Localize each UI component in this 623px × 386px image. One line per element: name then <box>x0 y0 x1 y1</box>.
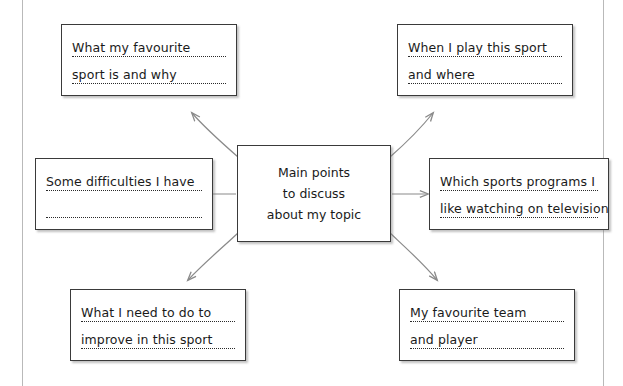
branch-line-text: What my favourite <box>72 40 190 55</box>
writing-line: sport is and why <box>72 60 226 87</box>
branch-line-text: and player <box>410 332 478 347</box>
dotted-rule <box>72 83 226 84</box>
branch-line-text: Which sports programs I <box>440 174 595 189</box>
dotted-rule <box>408 56 562 57</box>
main-topic-line: Main points <box>278 162 350 183</box>
writing-line: and where <box>408 60 562 87</box>
dotted-rule <box>81 348 235 349</box>
arrow-to-favourite-team <box>390 233 437 280</box>
writing-line: What my favourite <box>72 33 226 60</box>
branch-box-when-where-play[interactable]: When I play this sport and where <box>397 24 573 96</box>
writing-line: When I play this sport <box>408 33 562 60</box>
main-topic-line: to discuss <box>283 183 345 204</box>
dotted-rule <box>46 190 202 191</box>
branch-box-improve-in-sport[interactable]: What I need to do to improve in this spo… <box>70 289 246 361</box>
branch-line-text: improve in this sport <box>81 332 213 347</box>
writing-line: My favourite team <box>410 298 564 325</box>
dotted-rule <box>410 348 564 349</box>
dotted-rule <box>440 217 598 218</box>
dotted-rule <box>72 56 226 57</box>
branch-box-sports-programs-tv[interactable]: Which sports programs I like watching on… <box>429 158 609 230</box>
dotted-rule <box>408 83 562 84</box>
branch-box-difficulties[interactable]: Some difficulties I have <box>35 158 213 230</box>
branch-box-favourite-team-player[interactable]: My favourite team and player <box>399 289 575 361</box>
arrow-to-improve-in-sport <box>188 233 238 280</box>
branch-line-text: What I need to do to <box>81 305 211 320</box>
branch-line-text: My favourite team <box>410 305 527 320</box>
writing-line: improve in this sport <box>81 325 235 352</box>
writing-line: and player <box>410 325 564 352</box>
dotted-rule <box>81 321 235 322</box>
branch-line-text: sport is and why <box>72 67 177 82</box>
branch-line-text: Some difficulties I have <box>46 174 195 189</box>
writing-line: Which sports programs I <box>440 167 598 194</box>
main-topic-line: about my topic <box>267 204 361 225</box>
dotted-rule <box>46 217 202 218</box>
main-topic-box[interactable]: Main points to discuss about my topic <box>237 145 391 242</box>
writing-line: Some difficulties I have <box>46 167 202 194</box>
branch-line-text: like watching on television <box>440 201 609 216</box>
writing-line: like watching on television <box>440 194 598 221</box>
writing-line <box>46 194 202 221</box>
branch-box-favourite-sport[interactable]: What my favourite sport is and why <box>61 24 237 96</box>
arrow-to-favourite-sport <box>192 113 238 157</box>
arrow-to-when-where-play <box>390 113 433 157</box>
writing-line: What I need to do to <box>81 298 235 325</box>
branch-line-text: and where <box>408 67 475 82</box>
branch-line-text: When I play this sport <box>408 40 547 55</box>
worksheet-page: What my favourite sport is and why When … <box>0 0 623 386</box>
dotted-rule <box>410 321 564 322</box>
dotted-rule <box>440 190 598 191</box>
